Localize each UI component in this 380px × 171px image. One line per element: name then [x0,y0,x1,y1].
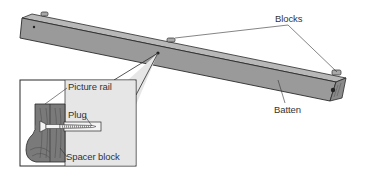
screw-hole-left [33,26,35,28]
block-left [41,12,48,16]
screw-hole-right [331,88,335,92]
block-right [332,70,341,75]
label-spacer-block: Spacer block [66,151,120,162]
block-middle [167,38,175,42]
label-blocks: Blocks [275,13,302,24]
label-plug: Plug [68,109,87,120]
label-picture-rail: Picture rail [68,81,112,92]
diagram-canvas [0,0,380,171]
label-batten: Batten [274,104,301,115]
